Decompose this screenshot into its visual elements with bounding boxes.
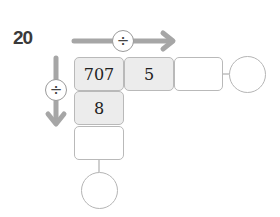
cell-row-divisor: 5 xyxy=(124,57,174,91)
cell-column-divisor: 8 xyxy=(74,91,124,125)
column-remainder-circle[interactable] xyxy=(81,172,118,209)
arrows-layer xyxy=(0,0,280,217)
horizontal-divide-icon: ÷ xyxy=(112,30,134,52)
cell-column-quotient-input[interactable] xyxy=(74,126,124,160)
row-remainder-circle[interactable] xyxy=(229,56,266,93)
vertical-divide-icon: ÷ xyxy=(45,79,67,101)
cell-dividend: 707 xyxy=(74,57,124,91)
cell-row-quotient-input[interactable] xyxy=(174,57,223,91)
